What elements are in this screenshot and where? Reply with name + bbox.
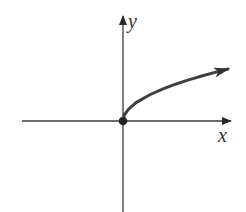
- sqrt-curve: [123, 69, 228, 121]
- sqrt-function-graph: y x: [0, 0, 246, 212]
- x-axis-label: x: [217, 124, 227, 146]
- y-axis-label: y: [126, 10, 137, 33]
- origin-point: [119, 117, 128, 126]
